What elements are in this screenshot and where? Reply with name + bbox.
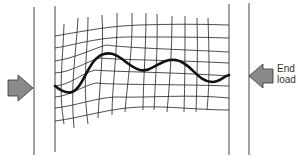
end-load-label-line1: End: [277, 63, 296, 74]
diagram-canvas: [0, 0, 298, 162]
end-load-label: End load: [277, 63, 296, 85]
grid-horizontal-lines: [55, 24, 229, 121]
arrow-left-icon: [249, 64, 273, 88]
grid-vertical-lines: [61, 13, 209, 128]
end-load-label-line2: load: [277, 74, 296, 85]
buckled-fiber: [55, 53, 229, 92]
arrow-right-icon: [8, 75, 33, 101]
